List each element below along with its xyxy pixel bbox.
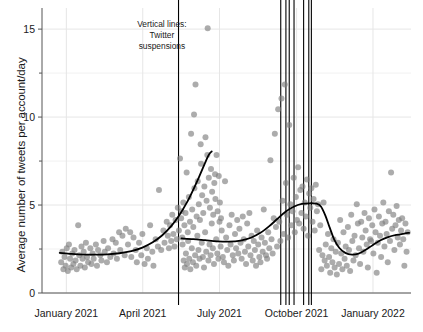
scatter-point: [399, 215, 405, 221]
scatter-point: [371, 206, 377, 212]
scatter-point: [87, 245, 93, 251]
scatter-point: [208, 166, 214, 172]
scatter-point: [333, 249, 339, 255]
scatter-point: [357, 261, 363, 267]
scatter-point: [303, 213, 309, 219]
scatter-point: [184, 261, 190, 267]
scatter-point: [114, 256, 120, 262]
scatter-point: [170, 231, 176, 237]
scatter-point: [283, 180, 289, 186]
scatter-point: [377, 233, 383, 239]
scatter-point: [218, 243, 224, 249]
scatter-point: [197, 217, 203, 223]
scatter-point: [286, 122, 292, 128]
scatter-point: [194, 233, 200, 239]
scatter-point: [362, 210, 368, 216]
scatter-point: [376, 213, 382, 219]
scatter-point: [318, 266, 324, 272]
scatter-point: [139, 231, 145, 237]
y-tick-label: 10: [23, 111, 35, 123]
scatter-point: [285, 235, 291, 241]
scatter-point: [345, 224, 351, 230]
scatter-point: [216, 219, 222, 225]
scatter-point: [75, 222, 81, 228]
scatter-point: [273, 224, 279, 230]
scatter-point: [202, 229, 208, 235]
scatter-plot-canvas: [0, 0, 423, 332]
scatter-point: [390, 212, 396, 218]
scatter-point: [359, 235, 365, 241]
scatter-point: [119, 233, 125, 239]
scatter-point: [210, 245, 216, 251]
scatter-point: [291, 175, 297, 181]
scatter-point: [394, 203, 400, 209]
scatter-point: [95, 247, 101, 253]
scatter-point: [246, 210, 252, 216]
scatter-point: [165, 233, 171, 239]
scatter-point: [73, 257, 79, 263]
scatter-point: [215, 208, 221, 214]
scatter-point: [185, 229, 191, 235]
scatter-point: [337, 217, 343, 223]
axis-tick-marks: [38, 29, 42, 293]
scatter-point: [306, 191, 312, 197]
scatter-point: [134, 259, 140, 265]
scatter-point: [347, 268, 353, 274]
scatter-point: [404, 249, 410, 255]
scatter-point: [168, 238, 174, 244]
scatter-point: [272, 131, 278, 137]
x-tick-label: July 2021: [197, 307, 242, 319]
scatter-point: [205, 257, 211, 263]
scatter-point: [365, 264, 371, 270]
scatter-point: [349, 238, 355, 244]
scatter-point: [189, 206, 195, 212]
scatter-point: [305, 233, 311, 239]
scatter-point: [71, 247, 77, 253]
scatter-point: [400, 236, 406, 242]
scatter-point: [256, 254, 262, 260]
scatter-point: [398, 228, 404, 234]
scatter-point: [257, 259, 263, 265]
scatter-point: [177, 155, 183, 161]
scatter-point: [287, 201, 293, 207]
annotation-line: Vertical lines:: [137, 19, 186, 30]
scatter-point: [233, 245, 239, 251]
scatter-point: [314, 208, 320, 214]
scatter-point: [321, 199, 327, 205]
scatter-point: [201, 184, 207, 190]
scatter-point: [340, 229, 346, 235]
scatter-point: [156, 187, 162, 193]
scatter-point: [202, 134, 208, 140]
scatter-point: [261, 206, 267, 212]
scatter-point: [138, 252, 144, 258]
y-tick-label: 5: [29, 199, 35, 211]
scatter-point: [295, 164, 301, 170]
scatter-point: [226, 222, 232, 228]
scatter-point: [214, 250, 220, 256]
scatter-point: [277, 238, 283, 244]
scatter-point: [292, 229, 298, 235]
scatter-point: [378, 254, 384, 260]
scatter-point: [62, 254, 68, 260]
scatter-point: [354, 201, 360, 207]
scatter-point: [329, 259, 335, 265]
scatter-point: [366, 215, 372, 221]
scatter-point: [187, 219, 193, 225]
scatter-point: [243, 261, 249, 267]
scatter-point: [180, 242, 186, 248]
scatter-point: [344, 263, 350, 269]
scatter-point: [313, 182, 319, 188]
scatter-point: [350, 257, 356, 263]
scatter-point: [200, 210, 206, 216]
scatter-point: [208, 252, 214, 258]
scatter-point: [316, 247, 322, 253]
scatter-point: [267, 157, 273, 163]
x-tick-label: October 2021: [265, 307, 329, 319]
scatter-point: [193, 263, 199, 269]
y-axis-label: Average number of tweets per account/day: [15, 40, 27, 290]
scatter-point: [198, 141, 204, 147]
scatter-point: [136, 240, 142, 246]
scatter-point: [199, 192, 205, 198]
scatter-point: [296, 221, 302, 227]
scatter-point: [219, 228, 225, 234]
